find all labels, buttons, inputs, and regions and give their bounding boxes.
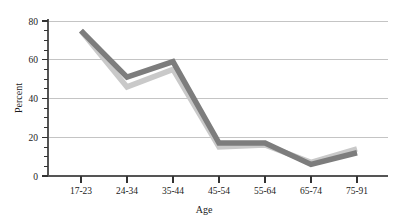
y-tick-label-20: 20 [29,133,39,143]
chart-canvas: 80 60 40 20 0 17-23 24-34 35-44 45-54 55… [0,0,396,222]
y-tick-label-40: 40 [29,94,39,104]
x-category-label-2: 35-44 [162,186,184,196]
x-category-label-1: 24-34 [116,186,138,196]
y-tick-label-60: 60 [29,55,39,65]
y-tick-label-80: 80 [29,17,39,27]
y-tick-label-0: 0 [33,172,38,182]
x-axis-title: Age [196,204,213,215]
x-category-label-6: 75-91 [346,186,368,196]
y-axis-title: Percent [13,83,24,113]
x-category-label-3: 45-54 [208,186,230,196]
x-category-label-5: 65-74 [300,186,322,196]
x-category-label-0: 17-23 [70,186,92,196]
line-chart: 80 60 40 20 0 17-23 24-34 35-44 45-54 55… [0,0,396,222]
x-category-label-4: 55-64 [254,186,276,196]
